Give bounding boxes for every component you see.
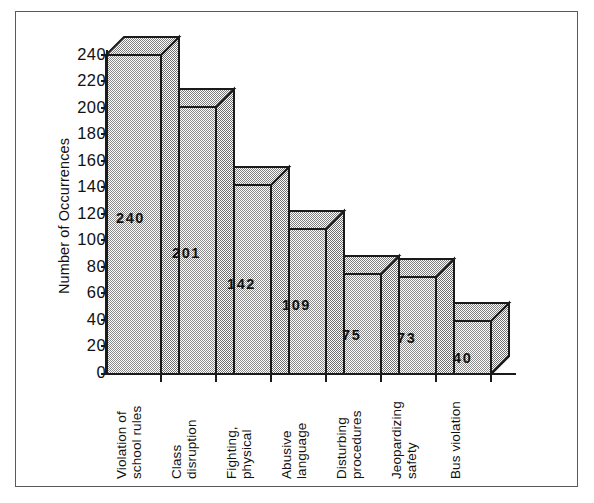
bar-value-disturbing-procedures: 75 <box>342 327 361 343</box>
x-tick-line2: language <box>294 423 309 479</box>
x-tick-label-jeopardizing-safety: Jeopardizing safety <box>389 401 419 479</box>
x-tick-line1: Jeopardizing <box>389 401 404 479</box>
x-tick-line2: school rules <box>129 406 144 479</box>
x-tick-line2: procedures <box>349 410 364 479</box>
chart-frame: Number of Occurrences 240 220 200 180 16… <box>15 11 578 487</box>
x-tick-label-violation-of-school-rules: Violation of school rules <box>114 406 144 479</box>
x-tick-label-abusive-language: Abusive language <box>279 423 309 479</box>
x-tick-line1: Bus violation <box>448 401 463 479</box>
x-tick-line1: Disturbing <box>334 417 349 479</box>
bar-value-abusive-language: 109 <box>282 297 311 313</box>
x-tick-line1: Fighting, <box>224 426 239 479</box>
x-tick-label-bus-violation: Bus violation <box>448 401 463 479</box>
x-tick-line2: physical <box>239 426 254 479</box>
x-tick-label-disturbing-procedures: Disturbing procedures <box>334 410 364 479</box>
bar-value-fighting-physical: 142 <box>227 276 256 292</box>
x-axis-ticks <box>161 374 491 382</box>
bar-violation-of-school-rules[interactable] <box>106 37 179 374</box>
x-tick-line2: disruption <box>184 419 199 479</box>
x-tick-line2: safety <box>404 401 419 479</box>
bars-svg <box>16 12 579 488</box>
plot-area: Number of Occurrences 240 220 200 180 16… <box>16 12 579 488</box>
bar-value-violation-of-school-rules: 240 <box>116 210 145 226</box>
x-tick-line1: Abusive <box>279 430 294 479</box>
bar-value-jeopardizing-safety: 73 <box>397 330 416 346</box>
bar-value-class-disruption: 201 <box>172 245 201 261</box>
x-tick-label-fighting-physical: Fighting, physical <box>224 426 254 479</box>
bar-value-bus-violation: 40 <box>453 350 472 366</box>
x-tick-label-class-disruption: Class disruption <box>169 419 199 479</box>
x-tick-line1: Class <box>169 445 184 479</box>
x-tick-line1: Violation of <box>114 411 129 479</box>
